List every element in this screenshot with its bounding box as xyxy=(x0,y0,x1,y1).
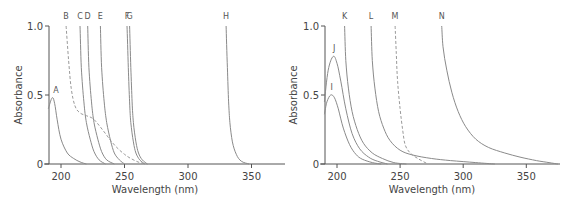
left-ticks: 20025030035000.51.0 xyxy=(27,21,261,183)
y-tick-label: 0.5 xyxy=(303,90,319,101)
curve-label-c: C xyxy=(77,12,83,21)
curve-a xyxy=(48,98,86,164)
curve-label-k: K xyxy=(342,12,348,21)
curve-label-a: A xyxy=(53,86,59,95)
curve-label-g: G xyxy=(126,12,132,21)
curve-n xyxy=(442,26,558,164)
curve-label-n: N xyxy=(439,12,445,21)
y-tick-label: 0 xyxy=(313,159,319,170)
curve-g xyxy=(130,26,148,164)
x-tick-label: 250 xyxy=(391,171,410,182)
x-tick-label: 200 xyxy=(51,171,70,182)
curve-label-b: B xyxy=(63,12,69,21)
curve-label-l: L xyxy=(369,12,374,21)
uv-absorbance-charts: 20025030035000.51.0 Wavelength (nm) Abso… xyxy=(0,0,573,206)
x-tick-label: 350 xyxy=(242,171,261,182)
y-tick-label: 1.0 xyxy=(27,21,43,32)
curve-e xyxy=(100,26,124,164)
y-tick-label: 1.0 xyxy=(303,21,319,32)
curve-label-e: E xyxy=(98,12,103,21)
right-x-axis-title: Wavelength (nm) xyxy=(389,184,475,195)
y-tick-label: 0.5 xyxy=(27,90,43,101)
left-y-axis-title: Absorbance xyxy=(13,65,24,124)
right-ticks: 20025030035000.51.0 xyxy=(303,21,536,183)
curve-label-d: D xyxy=(85,12,91,21)
curve-label-j: J xyxy=(332,44,335,53)
x-tick-label: 250 xyxy=(115,171,134,182)
left-curves: ABCDEFGH xyxy=(48,12,249,164)
right-y-axis-title: Absorbance xyxy=(288,65,299,124)
left-x-axis-title: Wavelength (nm) xyxy=(112,184,198,195)
curve-m xyxy=(395,26,428,164)
x-tick-label: 350 xyxy=(517,171,536,182)
curve-c xyxy=(80,26,106,164)
x-tick-label: 300 xyxy=(178,171,197,182)
curve-label-i: I xyxy=(331,83,333,92)
curve-b xyxy=(66,26,147,164)
curve-h xyxy=(226,26,249,164)
left-chart-panel: 20025030035000.51.0 Wavelength (nm) Abso… xyxy=(13,12,285,195)
y-tick-label: 0 xyxy=(37,159,43,170)
curve-label-m: M xyxy=(392,12,399,21)
right-chart-panel: 20025030035000.51.0 Wavelength (nm) Abso… xyxy=(288,12,560,195)
curve-l xyxy=(371,26,495,164)
curve-label-h: H xyxy=(223,12,229,21)
x-tick-label: 200 xyxy=(327,171,346,182)
right-curves: IJKLMN xyxy=(324,12,558,164)
x-tick-label: 300 xyxy=(454,171,473,182)
